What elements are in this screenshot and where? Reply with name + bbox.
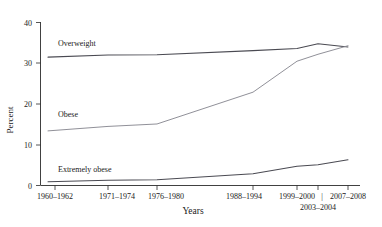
y-tick-label-40: 40	[24, 19, 32, 28]
x-tick-label-1960-1962: 1960–1962	[37, 192, 73, 201]
x-tick-marks	[55, 186, 348, 191]
y-tick-label-0: 0	[28, 182, 32, 191]
y-axis-title: Percent	[5, 106, 15, 133]
chart-figure: 40 30 20 10 0 Percent 1960–1962 1971–197…	[0, 0, 382, 227]
x-tick-separator: |	[321, 192, 323, 201]
line-chart-canvas: 40 30 20 10 0 Percent 1960–1962 1971–197…	[0, 0, 382, 227]
series-label-overweight: Overweight	[58, 39, 97, 48]
series-line-obese	[48, 46, 348, 131]
y-tick-label-30: 30	[24, 59, 32, 68]
x-tick-label-1999-2000: 1999–2000	[279, 192, 315, 201]
series-label-extremely-obese: Extremely obese	[58, 165, 112, 174]
x-tick-label-1988-1994: 1988–1994	[226, 192, 262, 201]
x-tick-label-2007-2008: 2007–2008	[330, 192, 366, 201]
x-tick-label-2003-2004: 2003–2004	[300, 203, 336, 212]
x-axis-title: Years	[182, 206, 204, 216]
y-tick-label-10: 10	[24, 141, 32, 150]
x-tick-label-1971-1974: 1971–1974	[99, 192, 135, 201]
x-tick-label-1976-1980: 1976–1980	[148, 192, 184, 201]
y-tick-label-20: 20	[24, 100, 32, 109]
y-tick-marks	[36, 23, 41, 186]
series-label-obese: Obese	[58, 110, 78, 119]
